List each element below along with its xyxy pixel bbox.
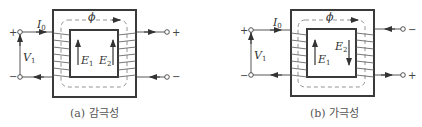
polarity-left-bottom: − [9,71,17,82]
terminal-secondary-top [165,30,170,35]
flux-label: ϕ [326,11,334,24]
current-label: I0 [36,18,46,32]
terminal-primary-top [249,28,254,33]
diagram-b-additive-polarity: + − − + I0 ϕ V1 E1 E2 [240,10,416,96]
terminal-secondary-top [401,27,406,32]
voltage-label: V1 [254,49,266,63]
polarity-left-bottom: − [240,70,248,81]
voltage-label: V1 [23,51,35,65]
polarity-right-bottom: + [408,70,416,81]
terminal-secondary-bottom [165,75,170,80]
caption-b: (b) 가극성 [310,104,359,120]
primary-winding [53,33,70,77]
emf1-label: E1 [317,53,331,67]
emf2-label: E2 [98,54,112,68]
terminal-primary-bottom [18,75,23,80]
terminal-secondary-bottom [401,73,406,78]
primary-winding [291,33,307,77]
polarity-right-top: − [408,24,416,35]
polarity-left-top: + [9,27,17,38]
terminal-primary-bottom [249,73,254,78]
core-window [70,30,118,77]
diagram-a-subtractive-polarity: + − + − I0 ϕ V1 E1 E2 [9,10,180,97]
emf1-label: E1 [80,54,94,68]
polarity-right-top: + [172,27,180,38]
current-label: I0 [272,16,282,30]
terminal-primary-top [18,30,23,35]
caption-a: (a) 감극성 [70,104,119,120]
flux-label: ϕ [88,11,96,24]
polarity-left-top: + [240,25,248,36]
emf2-label: E2 [334,40,348,54]
polarity-right-bottom: − [172,71,180,82]
